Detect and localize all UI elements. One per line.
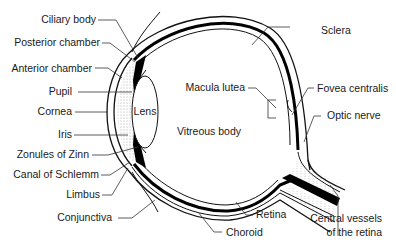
label-vitreous-body: Vitreous body: [177, 125, 242, 137]
label-fovea-centralis: Fovea centralis: [317, 82, 388, 94]
label-anterior-chamber: Anterior chamber: [11, 62, 92, 74]
label-choroid: Choroid: [226, 226, 263, 238]
label-macula-lutea: Macula lutea: [185, 81, 245, 93]
eyeball: [107, 12, 345, 232]
label-retina: Retina: [256, 208, 287, 220]
label-limbus: Limbus: [66, 188, 100, 200]
label-zonules-of-zinn: Zonules of Zinn: [17, 148, 90, 160]
label-lens: Lens: [134, 105, 157, 117]
eye-anatomy-diagram: Ciliary body Posterior chamber Anterior …: [0, 0, 396, 247]
label-ciliary-body: Ciliary body: [41, 13, 97, 25]
label-cornea: Cornea: [38, 105, 73, 117]
retina-lower-line: [138, 160, 278, 205]
label-conjunctiva: Conjunctiva: [57, 211, 112, 223]
label-canal-of-schlemm: Canal of Schlemm: [13, 168, 99, 180]
label-optic-nerve: Optic nerve: [327, 109, 381, 121]
label-iris: Iris: [58, 128, 72, 140]
label-central-vessels-line2: of the retina: [327, 226, 383, 238]
label-central-vessels-line1: Central vessels: [310, 212, 382, 224]
label-posterior-chamber: Posterior chamber: [14, 36, 100, 48]
label-sclera: Sclera: [321, 24, 351, 36]
label-pupil: Pupil: [49, 85, 72, 97]
